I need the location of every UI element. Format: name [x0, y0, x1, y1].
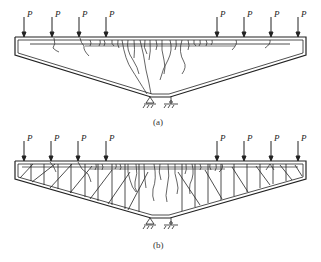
svg-text:P: P — [246, 133, 253, 143]
load-labels: P P P P P P P P P P P P P P P P — [26, 9, 307, 143]
svg-text:P: P — [219, 9, 226, 19]
svg-text:P: P — [219, 133, 226, 143]
svg-text:P: P — [54, 9, 61, 19]
panel-b-supports — [143, 218, 178, 229]
svg-text:P: P — [273, 9, 280, 19]
caption-a: (a) — [153, 117, 163, 127]
svg-text:P: P — [108, 9, 115, 19]
svg-text:P: P — [26, 133, 33, 143]
svg-text:P: P — [26, 9, 33, 19]
diagram-canvas: P P P P P P P P P P P P P P P P — [0, 0, 321, 262]
svg-text:P: P — [300, 133, 307, 143]
panel-a-beam — [15, 37, 306, 97]
svg-text:P: P — [80, 133, 87, 143]
svg-text:P: P — [81, 9, 88, 19]
caption-b: (b) — [153, 240, 164, 250]
panel-a-loads — [22, 17, 300, 37]
svg-text:P: P — [300, 9, 307, 19]
svg-text:P: P — [108, 133, 115, 143]
panel-b-web-members — [20, 164, 302, 212]
svg-text:P: P — [53, 133, 60, 143]
panel-b-loads — [22, 141, 300, 161]
panel-a-cracks — [53, 38, 270, 94]
panel-b-beam — [15, 161, 306, 218]
panel-a-supports — [143, 97, 178, 108]
load-arrow-icon — [22, 17, 300, 37]
svg-text:P: P — [273, 133, 280, 143]
svg-text:P: P — [246, 9, 253, 19]
